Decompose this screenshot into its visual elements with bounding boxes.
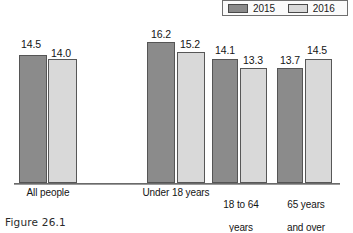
bar-value-all-people-2016: 14.0 [51, 48, 71, 59]
plot-area: 14.5 14.0 All people 16.2 15.2 Under 18 … [0, 0, 353, 232]
x-axis-line [14, 183, 340, 185]
bar-value-18-to-64-years-2015: 14.1 [215, 45, 235, 56]
category-label-18-to-64-years-line1: 18 to 64 [215, 199, 267, 211]
figure-caption: Figure 26.1 [5, 216, 66, 229]
category-label-65-years-and-over-line1: 65 years [279, 199, 333, 211]
bar-value-all-people-2015: 14.5 [21, 39, 41, 50]
category-label-all-people: All people [8, 187, 88, 199]
bar-value-65-years-and-over-2015: 13.7 [280, 55, 300, 66]
bar-all-people-2016 [48, 59, 77, 183]
bar-under-18-years-2016 [177, 52, 205, 183]
bar-65-years-and-over-2015 [277, 68, 303, 183]
bar-value-65-years-and-over-2016: 14.5 [307, 45, 327, 56]
bar-18-to-64-years-2015 [212, 59, 238, 183]
bar-18-to-64-years-2016 [240, 68, 267, 183]
bar-all-people-2015 [19, 55, 47, 183]
bar-under-18-years-2015 [147, 42, 175, 183]
figure-container: 2015 2016 14.5 14.0 All people 16.2 15.2… [0, 0, 353, 232]
category-label-18-to-64-years: 18 to 64 years [215, 187, 267, 232]
bar-value-under-18-years-2016: 15.2 [180, 39, 200, 50]
bar-value-18-to-64-years-2016: 13.3 [243, 55, 263, 66]
category-label-18-to-64-years-line2: years [215, 222, 267, 233]
bar-65-years-and-over-2016 [305, 59, 332, 183]
bar-value-under-18-years-2015: 16.2 [151, 29, 171, 40]
category-label-under-18-years: Under 18 years [136, 187, 216, 199]
category-label-65-years-and-over: 65 years and over [279, 187, 333, 232]
category-label-65-years-and-over-line2: and over [279, 222, 333, 233]
